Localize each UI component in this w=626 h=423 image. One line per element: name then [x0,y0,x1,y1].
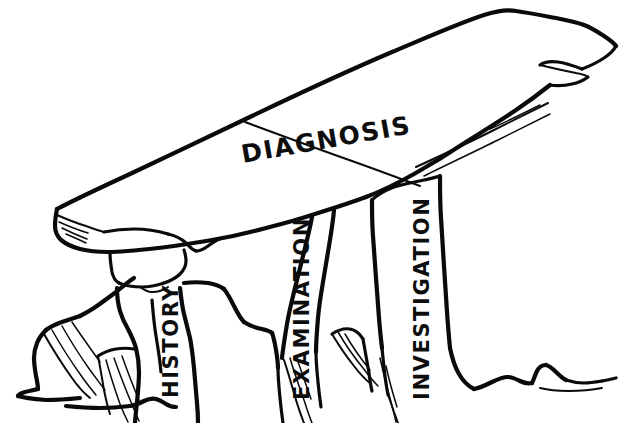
middle-support-label: EXAMINATION [290,217,314,400]
right-support-label: INVESTIGATION [410,197,434,400]
left-support-stone [98,288,198,423]
ground-rocks-right [474,365,616,391]
mid-ground-splinters [332,329,378,391]
left-support-label: HISTORY [159,284,183,398]
dolmen-figure: DIAGNOSIS HISTORY EXAMINATION INVESTIGAT… [0,0,626,423]
ground-rocks-left [66,399,176,408]
capstone-label: DIAGNOSIS [239,111,413,169]
dolmen-illustration: DIAGNOSIS HISTORY EXAMINATION INVESTIGAT… [0,0,626,423]
